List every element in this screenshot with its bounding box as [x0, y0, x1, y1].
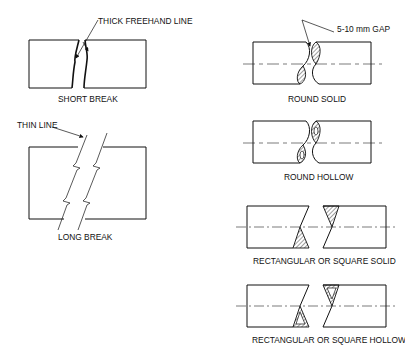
gap-label: 5-10 mm GAP	[337, 24, 390, 34]
rect-hollow-figure: RECTANGULAR OR SQUARE HOLLOW	[236, 285, 405, 345]
round-solid-figure: 5-10 mm GAP ROUND SOLID	[243, 20, 390, 104]
rect-solid-label: RECTANGULAR OR SQUARE SOLID	[253, 256, 396, 266]
thin-line-label: THIN LINE	[17, 120, 58, 130]
round-hollow-figure: ROUND HOLLOW	[243, 121, 382, 182]
break-lines-diagram: THICK FREEHAND LINE SHORT BREAK THIN LIN…	[0, 0, 405, 355]
long-break-label: LONG BREAK	[58, 232, 113, 242]
thick-freehand-label: THICK FREEHAND LINE	[98, 16, 193, 26]
rect-solid-figure: RECTANGULAR OR SQUARE SOLID	[236, 206, 396, 266]
rect-hollow-label: RECTANGULAR OR SQUARE HOLLOW	[252, 335, 405, 345]
round-hollow-label: ROUND HOLLOW	[284, 172, 353, 182]
long-break-figure: THIN LINE LONG BREAK	[17, 120, 146, 242]
round-solid-label: ROUND SOLID	[288, 94, 346, 104]
short-break-label: SHORT BREAK	[58, 94, 118, 104]
short-break-figure: THICK FREEHAND LINE SHORT BREAK	[29, 16, 193, 104]
